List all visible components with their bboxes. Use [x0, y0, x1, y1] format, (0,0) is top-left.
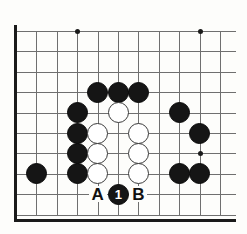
white-stone[interactable]: [87, 123, 108, 144]
move-number: 1: [115, 188, 122, 201]
white-stone[interactable]: [128, 123, 149, 144]
black-stone[interactable]: [67, 123, 88, 144]
black-stone[interactable]: [67, 102, 88, 123]
grid-line-horizontal: [16, 31, 236, 32]
white-stone[interactable]: [128, 143, 149, 164]
board-edge-left: [14, 25, 17, 221]
grid-line-vertical: [57, 31, 58, 215]
go-board-diagram: 1 AB: [0, 0, 247, 234]
grid-line-vertical: [36, 31, 37, 215]
white-stone[interactable]: [87, 143, 108, 164]
white-stone[interactable]: [108, 102, 129, 123]
grid-line-horizontal: [16, 51, 236, 52]
grid-line-horizontal: [16, 215, 236, 216]
grid-line-horizontal: [16, 153, 236, 154]
black-stone[interactable]: [128, 82, 149, 103]
black-stone[interactable]: [67, 163, 88, 184]
point-label-a[interactable]: A: [88, 186, 108, 203]
black-stone[interactable]: [169, 102, 190, 123]
board-edge-bottom: [14, 219, 236, 222]
black-stone[interactable]: [67, 143, 88, 164]
black-stone[interactable]: [87, 82, 108, 103]
black-stone[interactable]: [169, 163, 190, 184]
grid-line-vertical: [159, 31, 160, 215]
black-stone[interactable]: [108, 82, 129, 103]
grid-line-vertical: [220, 31, 221, 215]
star-point: [198, 29, 203, 34]
point-label-b[interactable]: B: [128, 186, 148, 203]
move-stone-1[interactable]: 1: [108, 184, 129, 205]
grid-line-horizontal: [16, 72, 236, 73]
black-stone[interactable]: [189, 123, 210, 144]
